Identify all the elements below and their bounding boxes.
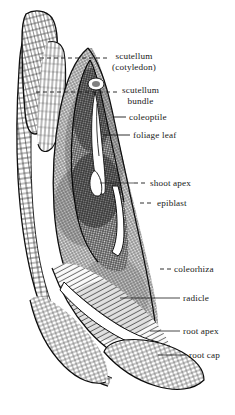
label-scutellum-bundle-line1: scutellum bbox=[122, 85, 159, 95]
label-scutellum-bundle: scutellum bundle bbox=[122, 85, 159, 106]
label-coleoptile: coleoptile bbox=[129, 112, 167, 123]
label-radicle: radicle bbox=[183, 293, 209, 304]
label-scutellum-line2: (cotyledon) bbox=[112, 62, 156, 73]
label-coleoptile-text: coleoptile bbox=[129, 112, 167, 122]
label-coleorhiza: coleorhiza bbox=[174, 264, 214, 275]
label-epiblast: epiblast bbox=[157, 198, 187, 209]
label-epiblast-text: epiblast bbox=[157, 198, 187, 208]
label-radicle-text: radicle bbox=[183, 293, 209, 303]
label-shoot-apex: shoot apex bbox=[150, 178, 191, 189]
label-foliage-leaf: foliage leaf bbox=[133, 130, 176, 141]
label-shoot-apex-text: shoot apex bbox=[150, 178, 191, 188]
label-root-cap-text: root cap bbox=[189, 350, 220, 360]
label-root-cap: root cap bbox=[189, 350, 220, 361]
label-scutellum: scutellum (cotyledon) bbox=[112, 51, 156, 72]
label-coleorhiza-text: coleorhiza bbox=[174, 264, 214, 274]
label-scutellum-line1: scutellum bbox=[115, 51, 152, 61]
figure-container: scutellum (cotyledon) scutellum bundle c… bbox=[0, 0, 235, 415]
label-scutellum-bundle-line2: bundle bbox=[122, 96, 159, 107]
label-foliage-leaf-text: foliage leaf bbox=[133, 130, 176, 140]
label-root-apex-text: root apex bbox=[183, 326, 219, 336]
structure-shoot-apex-dome bbox=[88, 78, 104, 90]
label-root-apex: root apex bbox=[183, 326, 219, 337]
